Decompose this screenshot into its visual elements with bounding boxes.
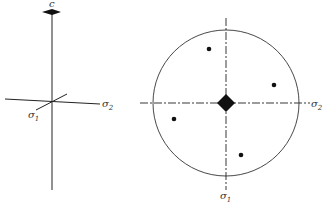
four-fold-symbol-icon <box>42 9 61 15</box>
sigma1-label: σ1 <box>28 109 39 123</box>
pole-point <box>239 153 244 158</box>
stereographic-projection: σ1 σ2 <box>140 18 323 204</box>
four-fold-diamond-icon <box>217 94 235 112</box>
left-3d-axes: c σ1 σ2 <box>5 0 114 190</box>
pole-point <box>172 117 177 122</box>
pole-point <box>272 83 277 88</box>
symmetry-diagram: c σ1 σ2 σ1 σ2 <box>0 0 324 206</box>
sigma2-label: σ2 <box>311 98 323 112</box>
sigma1-label: σ1 <box>220 190 231 204</box>
sigma2-label: σ2 <box>102 98 114 112</box>
c-label: c <box>49 0 55 9</box>
pole-point <box>207 47 212 52</box>
